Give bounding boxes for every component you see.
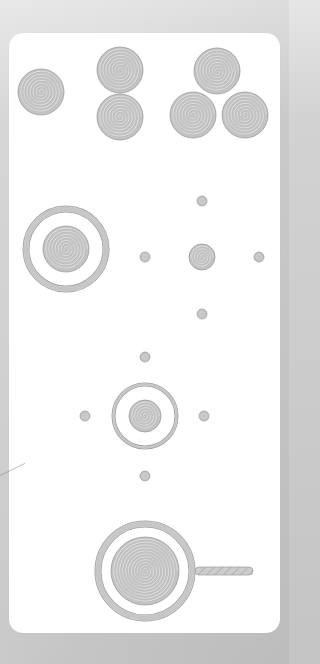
dot-icon <box>197 196 207 206</box>
small-target-center-icon <box>129 400 161 432</box>
stacked-disk-icon <box>97 47 143 93</box>
grouped-disk-icon <box>194 48 240 94</box>
dot-icon <box>140 352 150 362</box>
pieces-artwork <box>0 0 289 664</box>
dot-icon <box>197 309 207 319</box>
grouped-disk-icon <box>170 92 216 138</box>
dot-icon <box>199 411 209 421</box>
dot-icon <box>254 252 264 262</box>
dot-icon <box>140 471 150 481</box>
single-disk-icon <box>18 69 64 115</box>
dot-icon <box>140 252 150 262</box>
large-target-center-icon <box>43 226 89 272</box>
magnifier-center-icon <box>111 537 179 605</box>
magnifier-handle-icon <box>195 567 253 575</box>
stacked-disk-icon <box>97 94 143 140</box>
grouped-disk-icon <box>222 92 268 138</box>
dot-icon <box>80 411 90 421</box>
crosshair-center-icon <box>189 244 215 270</box>
